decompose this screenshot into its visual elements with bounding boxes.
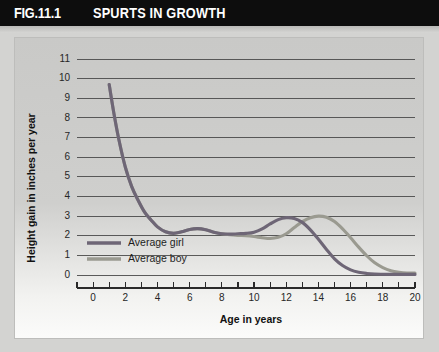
x-tick-label: 2 (123, 292, 129, 303)
figure-title: SPURTS IN GROWTH (93, 5, 226, 21)
x-axis-title: Age in years (220, 313, 283, 325)
x-tick-labels-group: 02468101214161820 (90, 292, 421, 303)
y-tick-label: 9 (64, 92, 70, 103)
x-tick-label: 8 (219, 292, 225, 303)
y-tick-label: 0 (64, 269, 70, 280)
x-tick-label: 18 (377, 292, 389, 303)
x-tick-label: 6 (187, 292, 193, 303)
figure-header-bar: FIG.11.1 SPURTS IN GROWTH (0, 0, 439, 26)
header-shadow-band (0, 26, 439, 33)
y-tick-label: 3 (64, 210, 70, 221)
y-tick-label: 5 (64, 170, 70, 181)
axis-group (77, 282, 415, 288)
figure-container: FIG.11.1 SPURTS IN GROWTH 01234567891011… (0, 0, 439, 352)
y-tick-label: 7 (64, 131, 70, 142)
x-tick-label: 0 (90, 292, 96, 303)
y-tick-label: 11 (60, 53, 71, 64)
figure-number: FIG.11.1 (14, 5, 61, 21)
y-tick-labels-group: 01234567891011 (59, 53, 71, 280)
y-tick-label: 2 (64, 229, 70, 240)
y-tick-label: 6 (64, 151, 70, 162)
growth-line-chart: 01234567891011 02468101214161820 Average… (15, 38, 423, 338)
x-tick-label: 4 (155, 292, 161, 303)
x-tick-label: 20 (409, 292, 421, 303)
y-tick-label: 4 (64, 190, 70, 201)
y-tick-label: 10 (59, 72, 71, 83)
x-tick-label: 14 (313, 292, 325, 303)
x-tick-label: 12 (281, 292, 293, 303)
x-tick-label: 10 (248, 292, 260, 303)
legend-label: Average girl (128, 236, 184, 248)
y-tick-label: 8 (64, 112, 70, 123)
x-tick-label: 16 (345, 292, 357, 303)
legend-group: Average girlAverage boy (87, 236, 188, 264)
legend-label: Average boy (128, 252, 188, 264)
y-axis-title: Height gain in inches per year (25, 113, 37, 262)
y-tick-label: 1 (64, 249, 70, 260)
chart-panel: 01234567891011 02468101214161820 Average… (14, 37, 424, 339)
